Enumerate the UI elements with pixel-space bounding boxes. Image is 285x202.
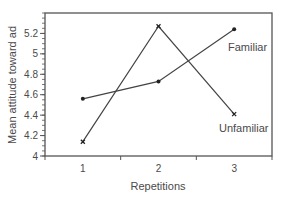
x-marker-icon: [81, 140, 85, 144]
x-tick-label: 1: [80, 163, 86, 174]
series-label-unfamiliar: Unfamiliar: [219, 122, 269, 134]
y-tick-label: 4: [32, 151, 38, 162]
dot-marker-icon: [157, 79, 161, 83]
series-label-familiar: Familiar: [228, 41, 267, 53]
y-tick-label: 4.8: [24, 69, 38, 80]
plot-frame: [45, 13, 272, 156]
y-tick-label: 4.4: [24, 110, 38, 121]
dot-marker-icon: [81, 97, 85, 101]
x-tick-label: 2: [156, 163, 162, 174]
line-chart: 44.24.44.64.855.2 123 FamiliarUnfamiliar…: [0, 0, 285, 202]
y-tick-label: 5.2: [24, 28, 38, 39]
series-line-unfamiliar: [83, 26, 234, 141]
y-axis-ticks: 44.24.44.64.855.2: [24, 13, 45, 162]
y-tick-label: 5: [32, 48, 38, 59]
series-lines: FamiliarUnfamiliar: [81, 24, 269, 143]
dot-marker-icon: [232, 27, 236, 31]
y-tick-label: 4.2: [24, 130, 38, 141]
x-marker-icon: [232, 112, 236, 116]
x-axis-label: Repetitions: [130, 180, 186, 192]
x-axis-ticks: 123: [45, 156, 272, 174]
y-tick-label: 4.6: [24, 89, 38, 100]
y-axis-label: Mean attitude toward ad: [6, 26, 18, 144]
plot-border: [45, 13, 272, 156]
x-tick-label: 3: [231, 163, 237, 174]
x-marker-icon: [157, 24, 161, 28]
